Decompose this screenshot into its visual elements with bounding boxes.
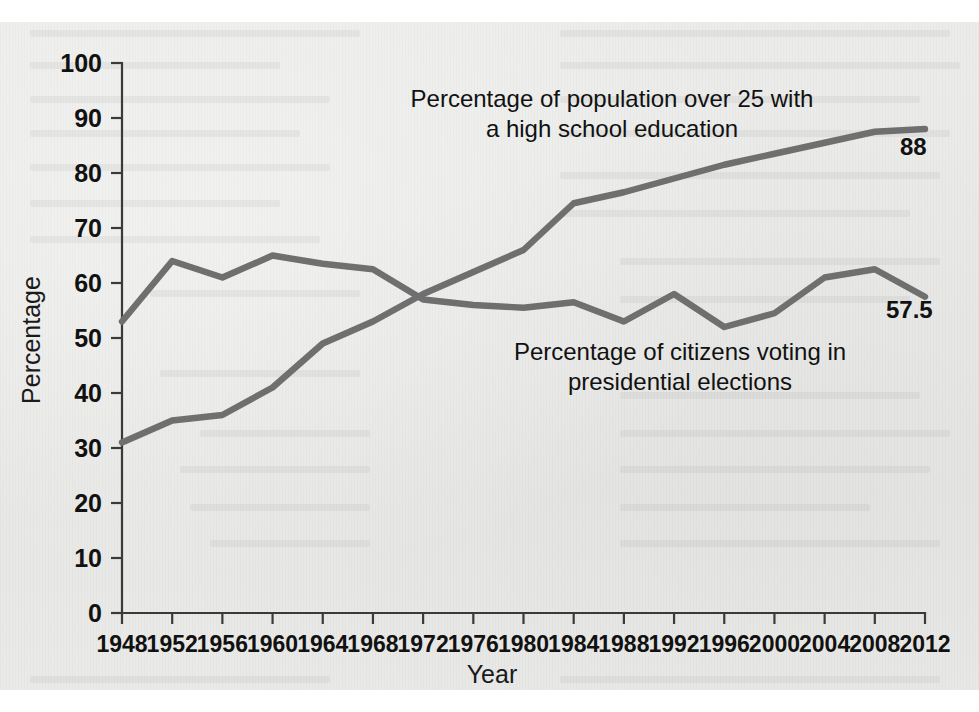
y-tick-label: 10 xyxy=(74,544,102,572)
y-tick-label: 60 xyxy=(74,269,102,297)
y-tick-label: 40 xyxy=(74,379,102,407)
voting-annotation-line1: Percentage of citizens voting in xyxy=(514,338,846,365)
education-line-series xyxy=(122,129,925,443)
voting-annotation-line2: presidential elections xyxy=(568,368,792,395)
y-axis-title: Percentage xyxy=(17,276,45,404)
voting-endpoint-label: 57.5 xyxy=(886,296,933,323)
x-tick-label: 1968 xyxy=(347,631,398,657)
x-tick-label: 1956 xyxy=(197,631,248,657)
x-tick-label: 1980 xyxy=(498,631,549,657)
chart-page: 0102030405060708090100 19481952195619601… xyxy=(0,0,979,712)
y-tick-label: 70 xyxy=(74,214,102,242)
x-tick-label: 1976 xyxy=(448,631,499,657)
y-axis-ticks xyxy=(111,63,122,613)
x-tick-label: 2000 xyxy=(749,631,800,657)
x-tick-label: 2012 xyxy=(899,631,950,657)
line-chart: 0102030405060708090100 19481952195619601… xyxy=(0,0,979,712)
y-tick-label: 50 xyxy=(74,324,102,352)
y-tick-label: 100 xyxy=(60,49,102,77)
y-tick-label: 30 xyxy=(74,434,102,462)
voting-line-series xyxy=(122,256,925,328)
y-tick-label: 80 xyxy=(74,159,102,187)
x-tick-label: 1972 xyxy=(398,631,449,657)
y-tick-label: 90 xyxy=(74,104,102,132)
x-tick-label: 1996 xyxy=(699,631,750,657)
education-annotation-line1: Percentage of population over 25 with xyxy=(411,85,814,112)
y-axis-tick-labels: 0102030405060708090100 xyxy=(60,49,102,627)
x-tick-label: 1960 xyxy=(247,631,298,657)
x-axis-title: Year xyxy=(467,660,518,688)
x-tick-label: 2008 xyxy=(849,631,900,657)
education-annotation-line2: a high school education xyxy=(486,115,738,142)
x-tick-label: 1992 xyxy=(648,631,699,657)
y-tick-label: 0 xyxy=(88,599,102,627)
education-endpoint-label: 88 xyxy=(900,133,927,160)
x-tick-label: 2004 xyxy=(799,631,850,657)
x-tick-label: 1952 xyxy=(147,631,198,657)
x-tick-label: 1948 xyxy=(96,631,147,657)
x-axis-ticks xyxy=(122,613,925,624)
x-axis-tick-labels: 1948195219561960196419681972197619801984… xyxy=(96,631,950,657)
x-tick-label: 1984 xyxy=(548,631,599,657)
x-tick-label: 1964 xyxy=(297,631,348,657)
y-tick-label: 20 xyxy=(74,489,102,517)
x-tick-label: 1988 xyxy=(598,631,649,657)
